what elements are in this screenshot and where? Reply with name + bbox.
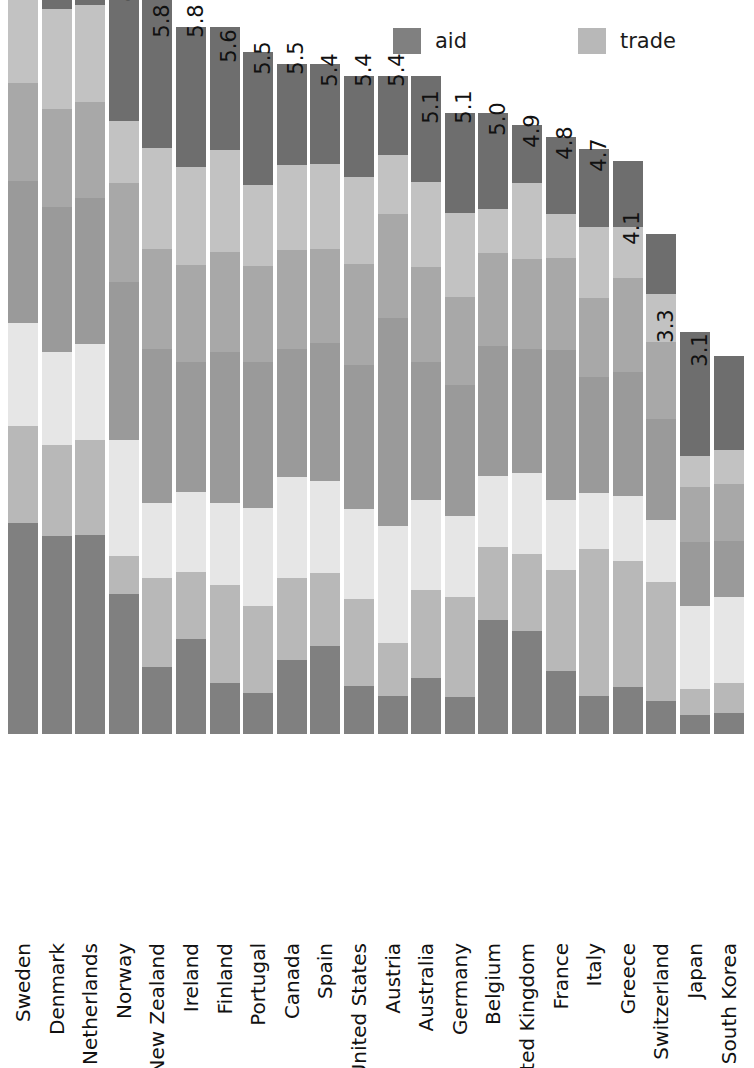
- stacked-bar[interactable]: [445, 113, 475, 734]
- stacked-bar[interactable]: [478, 113, 508, 734]
- bar-segment-aid: [378, 696, 408, 734]
- stacked-bar[interactable]: [75, 0, 105, 734]
- stacked-bar[interactable]: [243, 52, 273, 734]
- bar-segment-aid: [277, 660, 307, 734]
- stacked-bar[interactable]: [344, 76, 374, 734]
- bar-segment-aid: [75, 535, 105, 735]
- bar-segment-technology: [344, 76, 374, 177]
- bar-segment-security: [411, 182, 441, 267]
- bar-group[interactable]: 4.9: [546, 137, 576, 734]
- stacked-bar[interactable]: [310, 64, 340, 734]
- category-label-united-kingdom: United Kingdom: [512, 909, 542, 939]
- bar-segment-migration: [478, 346, 508, 476]
- bar-value-label: 6.1: [136, 0, 157, 2]
- stacked-bar[interactable]: [210, 27, 240, 734]
- bar-group[interactable]: 5.6: [243, 52, 273, 734]
- bar-segment-environment: [478, 253, 508, 346]
- bar-group[interactable]: 5.4: [344, 76, 374, 734]
- bar-segment-migration: [142, 349, 172, 503]
- bar-segment-aid: [546, 671, 576, 734]
- category-label-switzerland: Switzerland: [646, 909, 676, 939]
- bar-group[interactable]: 5.5: [310, 64, 340, 734]
- bar-segment-investment: [176, 492, 206, 571]
- bar-segment-environment: [378, 214, 408, 319]
- bar-segment-aid: [344, 686, 374, 734]
- bar-segment-trade: [579, 549, 609, 696]
- bar-segment-environment: [613, 278, 643, 372]
- bar-group[interactable]: 5.5: [277, 64, 307, 734]
- stacked-bar[interactable]: [8, 0, 38, 734]
- bar-segment-trade: [277, 578, 307, 660]
- bar-segment-aid: [512, 631, 542, 735]
- bar-segment-aid: [109, 594, 139, 734]
- bar-segment-investment: [8, 323, 38, 425]
- bar-group[interactable]: 5.8: [210, 27, 240, 734]
- bar-group[interactable]: 5.4: [378, 76, 408, 734]
- bar-segment-security: [344, 177, 374, 264]
- bar-group[interactable]: 6.7: [75, 0, 105, 734]
- bar-segment-trade: [75, 440, 105, 535]
- bar-segment-environment: [411, 267, 441, 362]
- category-label-canada: Canada: [277, 909, 307, 939]
- bar-segment-migration: [176, 362, 206, 492]
- bar-segment-trade: [646, 582, 676, 700]
- bar-group[interactable]: 4.7: [613, 161, 643, 734]
- stacked-bar[interactable]: [512, 125, 542, 734]
- category-label-australia: Australia: [411, 909, 441, 939]
- bar-segment-migration: [277, 349, 307, 477]
- bar-segment-investment: [75, 344, 105, 439]
- stacked-bar[interactable]: [176, 27, 206, 734]
- bar-group[interactable]: 5.4: [411, 76, 441, 734]
- bar-segment-technology: [176, 27, 206, 167]
- bar-segment-technology: [714, 356, 744, 450]
- bar-segment-security: [579, 227, 609, 298]
- stacked-bar[interactable]: [680, 332, 710, 734]
- stacked-bar[interactable]: [579, 149, 609, 734]
- bar-group[interactable]: 6.4: [109, 0, 139, 734]
- stacked-bar[interactable]: [546, 137, 576, 734]
- bar-segment-trade: [344, 599, 374, 687]
- bar-segment-trade: [8, 426, 38, 523]
- bar-segment-environment: [344, 264, 374, 365]
- bar-segment-security: [210, 150, 240, 252]
- bar-group[interactable]: 5.0: [512, 125, 542, 734]
- bar-group[interactable]: 6.8: [42, 0, 72, 734]
- stacked-bar[interactable]: [277, 64, 307, 734]
- category-label-japan: Japan: [680, 909, 710, 939]
- bar-segment-migration: [210, 352, 240, 503]
- category-label-germany: Germany: [445, 909, 475, 939]
- category-label-austria: Austria: [378, 909, 408, 939]
- bar-group[interactable]: 5.1: [445, 113, 475, 734]
- bar-segment-security: [176, 167, 206, 264]
- stacked-bar[interactable]: [142, 0, 172, 734]
- stacked-bar[interactable]: [378, 76, 408, 734]
- stacked-bar[interactable]: [613, 161, 643, 734]
- category-label-portugal: Portugal: [243, 909, 273, 939]
- bar-segment-migration: [680, 542, 710, 607]
- bar-group[interactable]: 5.8: [176, 27, 206, 734]
- bar-group[interactable]: 5.1: [478, 113, 508, 734]
- bar-segment-migration: [42, 207, 72, 352]
- bar-segment-investment: [680, 606, 710, 689]
- bar-segment-migration: [714, 541, 744, 597]
- bar-group[interactable]: 4.8: [579, 149, 609, 734]
- bar-group[interactable]: 3.1: [714, 356, 744, 734]
- bar-value-label: 4.7: [607, 138, 628, 171]
- bar-segment-environment: [680, 487, 710, 542]
- bar-segment-aid: [579, 696, 609, 734]
- category-axis: SwedenDenmarkNetherlandsNorwayNew Zealan…: [0, 901, 754, 1068]
- stacked-bar[interactable]: [411, 76, 441, 734]
- bar-segment-migration: [344, 365, 374, 509]
- bar-segment-migration: [310, 343, 340, 481]
- bar-segment-trade: [142, 578, 172, 667]
- category-label-norway: Norway: [109, 909, 139, 939]
- bar-group[interactable]: 7.0: [8, 0, 38, 734]
- category-label-finland: Finland: [210, 909, 240, 939]
- stacked-bar[interactable]: [42, 0, 72, 734]
- bar-segment-investment: [210, 503, 240, 585]
- stacked-bar[interactable]: [109, 0, 139, 734]
- bar-segment-migration: [546, 350, 576, 500]
- stacked-bar[interactable]: [714, 356, 744, 734]
- bar-group[interactable]: 3.3: [680, 332, 710, 734]
- bar-group[interactable]: 6.1: [142, 0, 172, 734]
